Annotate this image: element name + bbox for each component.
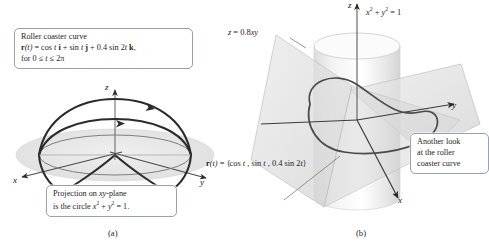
panel-a: Roller coaster curve r(t) = cos t i + si…	[0, 0, 244, 246]
callout-projection: Projection on xy-plane is the circle x2 …	[46, 185, 177, 217]
panel-b: z = 0.8xy x2 + y2 = 1 r(t) = ⟨cos t , si…	[244, 0, 488, 246]
panel-b-graphic	[244, 0, 488, 246]
cylinder-equation-label: x2 + y2 = 1	[366, 6, 401, 17]
callout-another-look: Another look at the roller coaster curve	[410, 133, 489, 174]
callout-projection-line-2: is the circle x2 + y2 = 1.	[53, 200, 171, 213]
callout-line-2: r(t) = cos t i + sin t j + 0.4 sin 2t k,	[21, 43, 187, 54]
axis-label-y: y	[200, 177, 204, 187]
axis-label-z: z	[105, 82, 109, 92]
curve-direction-arrow-mid	[116, 120, 125, 127]
curve-equation-label: r(t) = ⟨cos t , sin t , 0.4 sin 2t⟩	[206, 158, 306, 168]
callout-another-look-line-3: coaster curve	[417, 159, 483, 170]
callout-another-look-line-1: Another look	[417, 137, 483, 148]
axis-label-z: z	[348, 0, 352, 10]
callout-line-1: Roller coaster curve	[21, 32, 187, 43]
callout-roller-coaster-curve: Roller coaster curve r(t) = cos t i + si…	[14, 28, 193, 69]
caption-a: (a)	[108, 228, 118, 238]
axis-label-x: x	[13, 175, 17, 185]
surface-equation-label: z = 0.8xy	[228, 28, 258, 37]
callout-line-3: for 0 ≤ t ≤ 2π	[21, 54, 187, 65]
callout-another-look-line-2: at the roller	[417, 148, 483, 159]
callout-projection-line-1: Projection on xy-plane	[53, 189, 171, 200]
axis-label-x: x	[398, 195, 402, 205]
caption-b: (b)	[356, 228, 366, 238]
axis-label-y: y	[452, 100, 456, 110]
